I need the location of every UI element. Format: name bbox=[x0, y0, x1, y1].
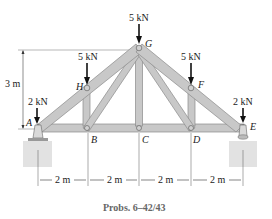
load-label-G: 5 kN bbox=[129, 12, 149, 23]
pin-D bbox=[189, 126, 194, 131]
load-arrow-A bbox=[34, 117, 40, 124]
load-label-A: 2 kN bbox=[28, 96, 48, 107]
load-arrow-E bbox=[240, 116, 246, 123]
node-label-D: D bbox=[192, 134, 201, 145]
span-label-DE: 2 m bbox=[210, 174, 226, 185]
pin-G bbox=[136, 45, 142, 51]
truss-members bbox=[38, 50, 244, 132]
span-label-BC: 2 m bbox=[107, 174, 123, 185]
node-label-E: E bbox=[249, 121, 256, 132]
load-label-E: 2 kN bbox=[233, 96, 253, 107]
node-label-G: G bbox=[145, 38, 152, 49]
load-arrow-G bbox=[136, 36, 142, 44]
node-label-C: C bbox=[142, 134, 149, 145]
node-label-A: A bbox=[25, 117, 33, 128]
pin-C bbox=[137, 126, 142, 131]
truss-diagram: 2 kN 5 kN 5 kN 5 kN 2 kN 3 m A B C D E F… bbox=[0, 0, 272, 219]
span-label-CD: 2 m bbox=[158, 174, 174, 185]
pin-B bbox=[85, 126, 90, 131]
member-GC bbox=[136, 50, 143, 126]
load-label-H: 5 kN bbox=[78, 51, 98, 62]
pin-H bbox=[84, 85, 90, 91]
height-label: 3 m bbox=[5, 78, 21, 89]
span-label-AB: 2 m bbox=[55, 174, 71, 185]
node-label-B: B bbox=[91, 134, 97, 145]
node-label-H: H bbox=[75, 81, 84, 92]
figure-caption: Probs. 6–42/43 bbox=[103, 202, 166, 213]
load-label-F: 5 kN bbox=[181, 51, 201, 62]
node-label-F: F bbox=[197, 79, 205, 90]
pin-F bbox=[188, 85, 194, 91]
